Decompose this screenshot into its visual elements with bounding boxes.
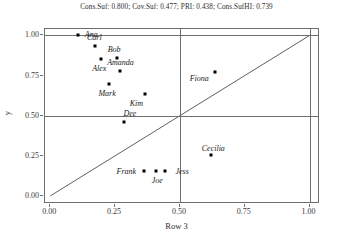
data-point-label: Kim (130, 98, 143, 107)
data-point (100, 58, 103, 61)
x-tick-label: 0.50 (172, 207, 186, 216)
data-point-label: Amanda (107, 58, 134, 67)
y-tick-mark (40, 155, 43, 156)
data-point (214, 70, 217, 73)
y-tick-mark (40, 34, 43, 35)
y-tick-mark (40, 115, 43, 116)
data-point (77, 34, 80, 37)
data-point (144, 92, 147, 95)
y-axis-label: y (2, 111, 12, 115)
data-point (164, 170, 167, 173)
chart-screenshot: Cons.Suf: 0.800; Cov.Suf: 0.477; PRI: 0.… (0, 0, 353, 243)
data-point-label: Jess (175, 167, 188, 176)
data-point (143, 170, 146, 173)
data-point (119, 70, 122, 73)
data-point-label: Carl (87, 33, 102, 42)
data-point-label: Mark (98, 89, 115, 98)
data-point-label: Frank (117, 167, 137, 176)
data-point-label: Bob (108, 45, 121, 54)
y-tick-label: 0.50 (25, 110, 39, 119)
data-point (94, 45, 97, 48)
data-point (122, 120, 125, 123)
data-point (155, 170, 158, 173)
x-tick-label: 1.00 (302, 207, 316, 216)
y-tick-label: 0.00 (25, 190, 39, 199)
x-axis-label: Row 3 (0, 221, 353, 231)
data-point (210, 153, 213, 156)
y-tick-mark (40, 75, 43, 76)
data-point-label: Cecilia (202, 143, 225, 152)
page-title: Cons.Suf: 0.800; Cov.Suf: 0.477; PRI: 0.… (0, 3, 353, 11)
data-point-label: Joe (152, 176, 163, 185)
plot-panel: AnaCarlBobAlexAmandaMarkFionaKimDeeCecil… (44, 28, 319, 203)
data-point-label: Dee (123, 108, 136, 117)
y-tick-label: 0.75 (25, 70, 39, 79)
data-point-label: Alex (92, 64, 106, 73)
x-tick-label: 0.25 (107, 207, 121, 216)
y-tick-mark (40, 195, 43, 196)
y-tick-label: 1.00 (25, 30, 39, 39)
gridline-horizontal (45, 116, 318, 117)
data-point (108, 83, 111, 86)
data-point-label: Fiona (190, 73, 209, 82)
x-tick-label: 0.00 (42, 207, 56, 216)
x-tick-label: 0.75 (237, 207, 251, 216)
y-tick-label: 0.25 (25, 150, 39, 159)
